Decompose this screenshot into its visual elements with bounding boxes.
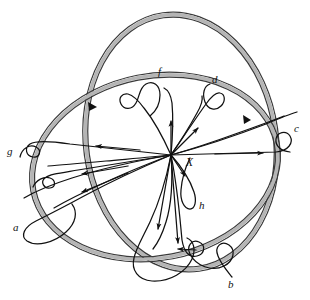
curve-label-h: h xyxy=(199,199,205,211)
tube-marker-right-icon xyxy=(243,115,251,124)
curve-label-d: d xyxy=(212,73,218,85)
curve-label-b: b xyxy=(228,278,234,290)
figure-canvas: X a b c d f g h xyxy=(0,0,310,300)
curve-d xyxy=(171,84,224,155)
curve-label-c: c xyxy=(294,122,299,134)
curve-b-wave-arrow xyxy=(171,155,178,243)
tube-lower-left xyxy=(13,51,297,283)
tube-direction-markers xyxy=(88,102,251,124)
tube-marker-left-icon xyxy=(88,102,97,111)
tube-lower-left-outer-edge xyxy=(13,51,297,283)
curve-label-a: a xyxy=(13,221,19,233)
tube-upper-right xyxy=(66,0,295,285)
center-label-x: X xyxy=(185,156,194,168)
curve-f xyxy=(120,83,171,155)
tube-upper-right-fill xyxy=(69,2,293,282)
curve-label-g: g xyxy=(7,145,13,157)
tube-upper-right-inner-edge xyxy=(72,5,290,279)
topology-diagram: X a b c d f g h xyxy=(0,0,310,300)
curve-b-stem-arrow xyxy=(158,155,171,229)
tube-lower-left-inner-edge xyxy=(19,57,291,277)
tube-upper-right-outer-edge xyxy=(66,0,295,285)
curve-d-stem xyxy=(171,96,202,155)
